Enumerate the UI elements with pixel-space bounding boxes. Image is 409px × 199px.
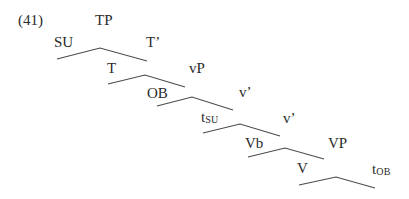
branch-VP [299, 177, 375, 188]
node-Vb: Vb [245, 136, 263, 151]
trace-subscript: SU [205, 114, 218, 125]
tree-branches [0, 0, 409, 199]
node-T-bar: T’ [146, 35, 160, 50]
node-T: T [107, 61, 116, 76]
node-OB: OB [147, 86, 168, 101]
node-V: V [297, 161, 308, 176]
node-v-bar-1: v’ [239, 85, 252, 100]
node-v-bar-2: v’ [283, 111, 296, 126]
node-SU: SU [54, 35, 73, 50]
syntax-tree-diagram: (41) TP SU T’ T vP OB v’ tSU v’ Vb VP V … [0, 0, 409, 199]
node-trace-OB: tOB [372, 162, 391, 178]
node-vP: vP [189, 61, 205, 76]
example-number: (41) [18, 13, 43, 28]
node-trace-SU: tSU [201, 110, 219, 126]
node-TP: TP [95, 13, 113, 28]
branch-vP [157, 97, 233, 110]
node-VP: VP [328, 136, 347, 151]
trace-subscript: OB [376, 166, 391, 177]
